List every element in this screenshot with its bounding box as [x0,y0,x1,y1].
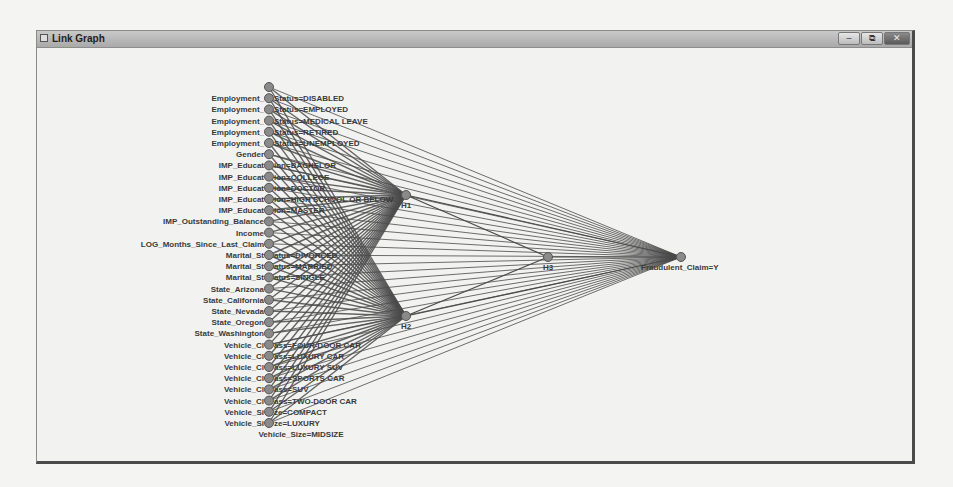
window-controls: – ⧉ ✕ [838,32,910,45]
input-node[interactable] [265,262,274,271]
node-label: ze=COMPACT [274,408,327,417]
input-node[interactable] [265,284,274,293]
input-node[interactable] [265,396,274,405]
node-label: Marital_St [226,273,265,282]
node-label: atus=MARRIED [274,262,333,271]
input-node[interactable] [265,419,274,428]
input-node[interactable] [265,351,274,360]
input-node[interactable] [265,374,274,383]
input-node[interactable] [265,127,274,136]
node-label: LOG_Months_Since_Last_Claim [141,240,264,249]
node-label: ass=TWO-DOOR CAR [274,397,357,406]
node-label: State_Oregon [212,318,265,327]
graph-canvas[interactable]: Employment_Status=DISABLEDEmployment_Sta… [37,48,912,461]
input-node[interactable] [265,183,274,192]
input-node[interactable] [265,217,274,226]
node-label: H2 [401,322,412,331]
node-label: Vehicle_Si [224,419,264,428]
node-label: ass=SUV [274,385,309,394]
node-label: Status=UNEMPLOYED [274,139,360,148]
window-icon [40,34,48,42]
node-label: IMP_Educat [219,206,265,215]
hidden-node[interactable] [402,191,411,200]
node-label: State_Washington [195,329,265,338]
hidden-node[interactable] [544,253,553,262]
node-label: ion=MASTER [274,206,325,215]
node-label: Status=EMPLOYED [274,105,348,114]
node-label: IMP_Educat [219,161,265,170]
close-button[interactable]: ✕ [884,32,910,45]
node-label: ion=HIGH SCHOOL OR BELOW [274,195,394,204]
node-label: Vehicle_Cl [224,341,264,350]
output-node[interactable] [677,253,686,262]
input-node[interactable] [265,363,274,372]
node-label: Employment_ [212,117,265,126]
input-node[interactable] [265,161,274,170]
node-label: State_Arizona [211,285,265,294]
node-label: IMP_Educat [219,184,265,193]
node-label: Vehicle_Cl [224,363,264,372]
node-label: Employment_ [212,128,265,137]
node-label: atus=DIVORCED [274,251,338,260]
node-label: atus=SINGLE [274,273,326,282]
node-label: ass=SPORTS CAR [274,374,345,383]
node-label: State_Nevada [212,307,265,316]
input-node[interactable] [265,329,274,338]
input-node[interactable] [265,94,274,103]
node-label: Vehicle_Cl [224,374,264,383]
input-node[interactable] [265,116,274,125]
node-label: H1 [401,201,412,210]
node-label: ion=COLLEGE [274,173,330,182]
node-label: IMP_Outstanding_Balance [163,217,264,226]
link-graph[interactable]: Employment_Status=DISABLEDEmployment_Sta… [37,48,916,465]
minimize-button[interactable]: – [838,32,860,45]
title-bar[interactable]: Link Graph – ⧉ ✕ [37,31,912,48]
node-label: Vehicle_Size=MIDSIZE [258,430,344,439]
node-label: ass=LUXURY CAR [274,352,344,361]
input-node[interactable] [265,340,274,349]
input-node[interactable] [265,385,274,394]
node-label: IMP_Educat [219,195,265,204]
node-label: State_California [203,296,264,305]
input-node[interactable] [265,318,274,327]
node-label: Vehicle_Cl [224,385,264,394]
node-label: Marital_St [226,251,265,260]
link-graph-window: Link Graph – ⧉ ✕ Employment_Status=DISAB… [36,30,915,464]
node-label: Employment_ [212,94,265,103]
input-node[interactable] [265,407,274,416]
node-label: Vehicle_Cl [224,352,264,361]
node-label: ze=LUXURY [274,419,320,428]
input-node[interactable] [265,150,274,159]
window-title: Link Graph [52,32,105,46]
input-node[interactable] [265,295,274,304]
node-label: Employment_ [212,105,265,114]
node-label: Vehicle_Cl [224,397,264,406]
node-label: ass=FOUR-DOOR CAR [274,341,361,350]
node-label: Income [236,229,265,238]
input-node[interactable] [265,307,274,316]
node-label: Vehicle_Si [224,408,264,417]
input-node[interactable] [265,273,274,282]
input-node[interactable] [265,228,274,237]
node-label: Gender [236,150,264,159]
node-label: ion=BACHELOR [274,161,336,170]
input-node[interactable] [265,239,274,248]
node-label: Marital_St [226,262,265,271]
node-label: IMP_Educat [219,173,265,182]
node-label: ass=LUXURY SUV [274,363,344,372]
input-node[interactable] [265,251,274,260]
node-label: ion=DOCTOR [274,184,325,193]
node-label: Status=RETIRED [274,128,338,137]
input-node[interactable] [265,83,274,92]
hidden-node[interactable] [402,312,411,321]
input-node[interactable] [265,172,274,181]
input-node[interactable] [265,139,274,148]
node-label: Status=MEDICAL LEAVE [274,117,368,126]
node-label: Employment_ [212,139,265,148]
input-node[interactable] [265,206,274,215]
node-label: Status=DISABLED [274,94,344,103]
input-node[interactable] [265,105,274,114]
input-node[interactable] [265,195,274,204]
restore-button[interactable]: ⧉ [861,32,883,45]
node-label: H3 [543,263,554,272]
